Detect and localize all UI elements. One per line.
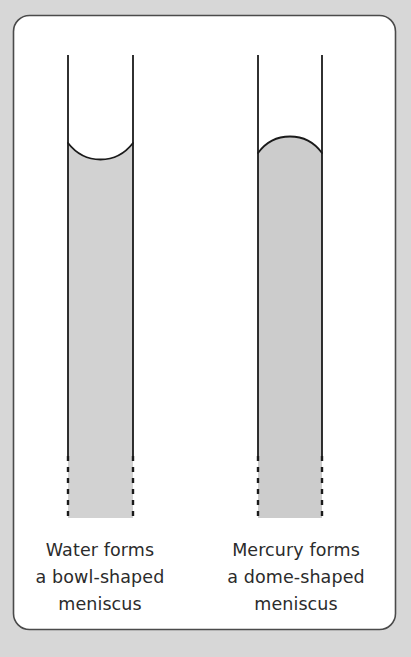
- mercury-caption-line-3: meniscus: [254, 594, 338, 614]
- water-liquid-fill: [68, 143, 133, 518]
- figure-canvas: Water forms a bowl-shaped meniscus Mercu…: [0, 0, 411, 657]
- water-caption-line-1: Water forms: [46, 540, 154, 560]
- water-caption-line-3: meniscus: [58, 594, 142, 614]
- mercury-caption-line-1: Mercury forms: [232, 540, 360, 560]
- meniscus-figure: Water forms a bowl-shaped meniscus Mercu…: [0, 0, 411, 657]
- water-caption-line-2: a bowl-shaped: [36, 567, 165, 587]
- mercury-liquid-fill: [258, 137, 322, 519]
- mercury-caption-line-2: a dome-shaped: [227, 567, 364, 587]
